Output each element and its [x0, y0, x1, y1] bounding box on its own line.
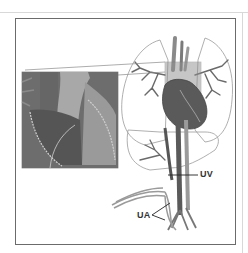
heart-inset — [22, 72, 118, 168]
liver-outline — [127, 130, 218, 170]
label-uv: UV — [200, 169, 213, 179]
fetal-circulation-illustration — [0, 0, 248, 253]
label-ua: UA — [137, 210, 150, 220]
umbilical-cord — [112, 188, 176, 230]
